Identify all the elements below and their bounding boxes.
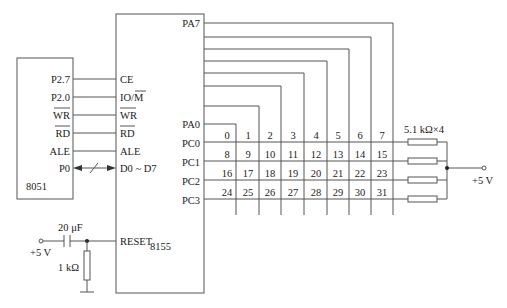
svg-text:21: 21 [333, 168, 344, 179]
pin-p20: P2.0 [51, 92, 70, 103]
pin-ale: ALE [50, 146, 70, 157]
reset-resistor [84, 251, 90, 280]
pin-rd-8155: RD [120, 128, 135, 139]
arrow-right-icon [107, 165, 116, 171]
svg-text:10: 10 [265, 149, 276, 160]
pin-d0-d7: D0 ~ D7 [120, 163, 157, 174]
keypad-interface-schematic: 8051 P2.7 P2.0 WR RD ALE P0 8155 CE IO/M… [0, 0, 507, 308]
arrow-left-icon [73, 165, 82, 171]
pin-p0: P0 [59, 163, 70, 174]
capacitor-label: 20 μF [58, 222, 83, 233]
svg-text:5: 5 [335, 130, 340, 141]
svg-text:28: 28 [311, 187, 322, 198]
reset-vcc-label: +5 V [30, 247, 52, 258]
svg-text:20: 20 [311, 168, 322, 179]
chip-8051-label: 8051 [26, 181, 47, 192]
pin-pa0: PA0 [182, 119, 200, 130]
svg-text:24: 24 [222, 187, 233, 198]
pin-pc3: PC3 [182, 195, 200, 206]
pin-pc1: PC1 [182, 157, 200, 168]
vcc-terminal-icon [482, 166, 486, 170]
svg-text:26: 26 [265, 187, 276, 198]
pin-wr: WR [53, 110, 70, 121]
svg-text:0: 0 [224, 130, 229, 141]
pin-p27: P2.7 [51, 74, 70, 85]
svg-text:23: 23 [377, 168, 388, 179]
svg-text:7: 7 [379, 130, 384, 141]
svg-text:6: 6 [357, 130, 362, 141]
svg-text:29: 29 [333, 187, 344, 198]
pullup-resistors [408, 139, 482, 202]
svg-text:31: 31 [377, 187, 388, 198]
pullup-label: 5.1 kΩ×4 [404, 124, 445, 135]
pin-pc0: PC0 [182, 138, 200, 149]
svg-text:22: 22 [355, 168, 366, 179]
vcc-label: +5 V [472, 175, 494, 186]
pin-pa7: PA7 [182, 18, 200, 29]
svg-text:3: 3 [290, 130, 295, 141]
svg-text:16: 16 [222, 168, 233, 179]
svg-text:8: 8 [224, 149, 229, 160]
svg-text:25: 25 [243, 187, 254, 198]
svg-text:1: 1 [245, 130, 250, 141]
vcc-terminal-icon [39, 239, 43, 243]
pin-wr-8155: WR [120, 110, 137, 121]
junction-dot [445, 166, 449, 170]
resistor-label: 1 kΩ [58, 262, 79, 273]
pin-ce: CE [120, 74, 133, 85]
svg-text:18: 18 [265, 168, 276, 179]
svg-text:17: 17 [243, 168, 254, 179]
svg-text:30: 30 [355, 187, 366, 198]
svg-text:11: 11 [288, 149, 298, 160]
pin-io-m: IO/M [120, 92, 144, 103]
pin-ale-8155: ALE [120, 146, 140, 157]
svg-text:13: 13 [333, 149, 344, 160]
svg-text:9: 9 [245, 149, 250, 160]
pin-pc2: PC2 [182, 176, 200, 187]
svg-text:12: 12 [311, 149, 322, 160]
pin-reset: RESET [120, 236, 153, 247]
svg-text:2: 2 [267, 130, 272, 141]
svg-text:15: 15 [377, 149, 388, 160]
svg-text:4: 4 [313, 130, 319, 141]
svg-text:27: 27 [288, 187, 299, 198]
chip-8155-label: 8155 [150, 241, 171, 252]
svg-text:19: 19 [288, 168, 299, 179]
pin-rd: RD [55, 128, 70, 139]
svg-text:14: 14 [355, 149, 366, 160]
